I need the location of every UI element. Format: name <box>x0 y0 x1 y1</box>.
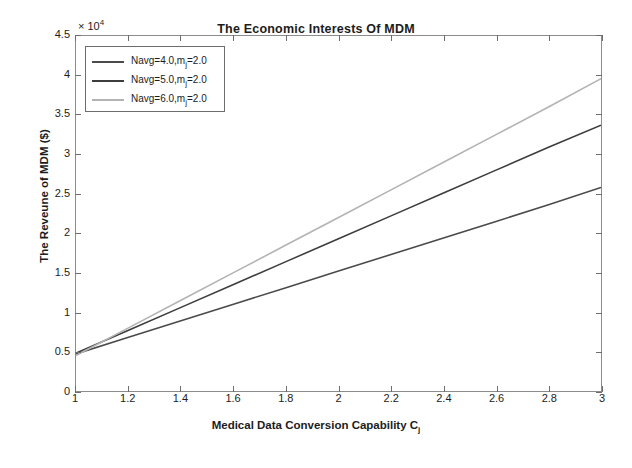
x-axis-tick <box>602 35 603 41</box>
y-axis-tick <box>596 233 602 234</box>
y-axis-tick <box>596 352 602 353</box>
y-axis-tick <box>596 75 602 76</box>
x-axis-tick-label: 1.2 <box>106 392 150 404</box>
x-axis-tick <box>128 35 129 41</box>
y-axis-tick-label: 2.5 <box>30 187 70 199</box>
y-axis-exponent-multiplier: × 104 <box>78 18 104 32</box>
x-axis-tick <box>497 35 498 41</box>
y-axis-tick-label: 1 <box>30 306 70 318</box>
x-axis-tick-label: 1 <box>53 392 97 404</box>
y-axis-tick-label: 4 <box>30 68 70 80</box>
y-axis-tick-label: 1.5 <box>30 266 70 278</box>
y-axis-tick <box>75 114 81 115</box>
legend-label-main: Navg=4.0,m <box>131 55 185 66</box>
legend-item-label: Navg=6.0,mj=2.0 <box>131 93 207 107</box>
legend-item-label: Navg=5.0,mj=2.0 <box>131 74 207 88</box>
x-axis-tick <box>339 35 340 41</box>
legend-label-tail: =2.0 <box>187 93 207 104</box>
x-axis-tick-label: 2.8 <box>527 392 571 404</box>
x-axis-tick <box>444 35 445 41</box>
y-axis-tick <box>75 194 81 195</box>
legend-item: Navg=6.0,mj=2.0 <box>92 90 218 109</box>
x-axis-tick <box>233 35 234 41</box>
x-axis-tick-label: 2.6 <box>475 392 519 404</box>
legend-item: Navg=5.0,mj=2.0 <box>92 71 218 90</box>
x-axis-tick-label: 2.2 <box>369 392 413 404</box>
y-axis-tick <box>596 154 602 155</box>
x-axis-tick-label: 2.4 <box>422 392 466 404</box>
y-exponent-power: 4 <box>100 18 104 27</box>
y-axis-tick <box>75 233 81 234</box>
y-axis-tick-label: 3 <box>30 147 70 159</box>
y-axis-tick-label: 0.5 <box>30 345 70 357</box>
chart-figure: The Economic Interests Of MDM × 104 The … <box>0 0 632 468</box>
y-axis-tick <box>75 352 81 353</box>
legend-item: Navg=4.0,mj=2.0 <box>92 52 218 71</box>
series-line <box>76 187 601 353</box>
y-axis-tick <box>596 313 602 314</box>
chart-legend: Navg=4.0,mj=2.0 Navg=5.0,mj=2.0 Navg=6.0… <box>85 46 225 112</box>
legend-label-tail: =2.0 <box>187 74 207 85</box>
series-line <box>76 125 601 353</box>
x-axis-tick <box>180 35 181 41</box>
legend-label-main: Navg=6.0,m <box>131 93 185 104</box>
x-axis-tick-label: 1.4 <box>158 392 202 404</box>
y-axis-tick <box>75 75 81 76</box>
x-axis-tick <box>75 35 76 41</box>
y-axis-tick-label: 4.5 <box>30 28 70 40</box>
x-axis-title-subscript: j <box>418 425 420 434</box>
legend-label-main: Navg=5.0,m <box>131 74 185 85</box>
y-axis-tick-label: 3.5 <box>30 107 70 119</box>
y-axis-tick-label: 2 <box>30 226 70 238</box>
y-axis-tick <box>596 273 602 274</box>
y-exponent-prefix: × 10 <box>78 20 100 32</box>
x-axis-tick-label: 3 <box>580 392 624 404</box>
y-axis-tick <box>596 194 602 195</box>
x-axis-title: Medical Data Conversion Capability Cj <box>0 419 632 434</box>
x-axis-tick-label: 1.6 <box>211 392 255 404</box>
legend-label-tail: =2.0 <box>187 55 207 66</box>
y-axis-tick <box>596 114 602 115</box>
x-axis-tick <box>286 35 287 41</box>
x-axis-tick-label: 2 <box>317 392 361 404</box>
y-axis-tick <box>75 273 81 274</box>
legend-color-swatch <box>92 61 124 63</box>
x-axis-tick <box>391 35 392 41</box>
y-axis-tick <box>75 154 81 155</box>
legend-item-label: Navg=4.0,mj=2.0 <box>131 55 207 69</box>
x-axis-tick-label: 1.8 <box>264 392 308 404</box>
series-line <box>76 79 601 356</box>
legend-color-swatch <box>92 80 124 82</box>
legend-color-swatch <box>92 99 124 101</box>
x-axis-tick <box>549 35 550 41</box>
y-axis-tick <box>75 313 81 314</box>
x-axis-title-text: Medical Data Conversion Capability C <box>212 419 418 431</box>
